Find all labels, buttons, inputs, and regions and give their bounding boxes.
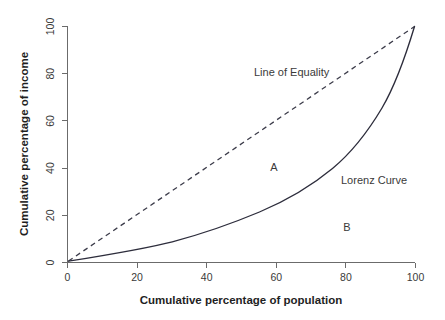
y-tick-label-0: 0 — [44, 259, 56, 265]
lorenz-curve-chart: 0 20 40 60 80 100 0 20 40 60 80 100 Cumu… — [0, 0, 445, 320]
y-tick-label-20: 20 — [44, 209, 56, 221]
x-tick-label-20: 20 — [131, 271, 143, 283]
x-tick-labels: 0 20 40 60 80 100 — [65, 271, 425, 283]
x-tick-label-80: 80 — [340, 271, 352, 283]
x-tick-marks — [68, 263, 416, 269]
x-tick-label-100: 100 — [407, 271, 425, 283]
y-tick-label-60: 60 — [44, 115, 56, 127]
x-axis-title: Cumulative percentage of population — [140, 294, 343, 306]
lorenz-curve-label: Lorenz Curve — [341, 174, 407, 186]
y-tick-marks — [62, 27, 68, 263]
region-a-label: A — [270, 161, 278, 173]
x-tick-label-0: 0 — [65, 271, 71, 283]
region-b-label: B — [343, 221, 350, 233]
chart-canvas: 0 20 40 60 80 100 0 20 40 60 80 100 Cumu… — [0, 0, 445, 320]
y-tick-label-80: 80 — [44, 68, 56, 80]
y-tick-labels: 0 20 40 60 80 100 — [44, 18, 56, 266]
x-tick-label-40: 40 — [201, 271, 213, 283]
line-of-equality-series — [69, 27, 415, 262]
y-tick-label-100: 100 — [44, 18, 56, 36]
y-axis-title: Cumulative percentage of income — [18, 52, 30, 236]
x-tick-label-60: 60 — [270, 271, 282, 283]
y-tick-label-40: 40 — [44, 162, 56, 174]
line-of-equality-label: Line of Equality — [254, 66, 330, 78]
